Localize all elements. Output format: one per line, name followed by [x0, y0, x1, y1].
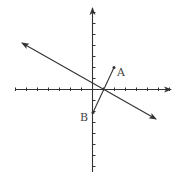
point-a-label: A	[116, 66, 126, 79]
point-b	[92, 111, 95, 114]
line-with-arrows	[22, 43, 156, 119]
point-a	[113, 66, 116, 69]
coordinate-diagram: A B	[0, 0, 178, 179]
point-b-label: B	[80, 111, 88, 124]
